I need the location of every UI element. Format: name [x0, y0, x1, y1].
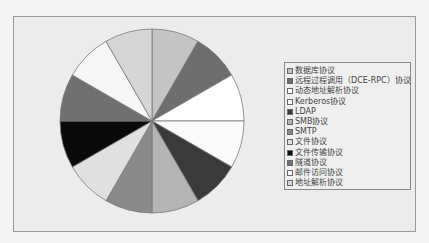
legend-item: 邮件访问协议	[287, 168, 408, 178]
legend-item: Kerberos协议	[287, 97, 408, 107]
legend-label: 远程过程调用（DCE-RPC）协议	[295, 76, 411, 86]
legend-label: Kerberos协议	[295, 97, 346, 107]
legend-swatch	[287, 180, 293, 186]
legend-item: 隧道协议	[287, 158, 408, 168]
legend-swatch	[287, 160, 293, 166]
legend-swatch	[287, 99, 293, 105]
legend-swatch	[287, 129, 293, 135]
legend-label: LDAP	[295, 107, 316, 117]
legend-label: 隧道协议	[295, 158, 327, 168]
legend-item: 远程过程调用（DCE-RPC）协议	[287, 76, 408, 86]
legend-item: 文件传输协议	[287, 148, 408, 158]
legend-label: SMTP	[295, 127, 317, 137]
legend-item: LDAP	[287, 107, 408, 117]
legend-label: 地址解析协议	[295, 178, 343, 188]
legend-swatch	[287, 109, 293, 115]
legend-item: 地址解析协议	[287, 178, 408, 188]
legend-label: 动态地址解析协议	[295, 86, 359, 96]
legend-item: SMB协议	[287, 117, 408, 127]
legend-swatch	[287, 150, 293, 156]
legend-item: 数据库协议	[287, 66, 408, 76]
legend-swatch	[287, 68, 293, 74]
legend-swatch	[287, 78, 293, 84]
legend-swatch	[287, 139, 293, 145]
legend-swatch	[287, 119, 293, 125]
legend: 数据库协议 远程过程调用（DCE-RPC）协议 动态地址解析协议 Kerbero…	[284, 62, 411, 190]
legend-label: 文件传输协议	[295, 148, 343, 158]
legend-label: 文件协议	[295, 137, 327, 147]
legend-label: SMB协议	[295, 117, 328, 127]
legend-label: 邮件访问协议	[295, 168, 343, 178]
pie-chart	[59, 28, 245, 214]
legend-swatch	[287, 88, 293, 94]
legend-item: 文件协议	[287, 137, 408, 147]
legend-swatch	[287, 170, 293, 176]
legend-item: SMTP	[287, 127, 408, 137]
legend-label: 数据库协议	[295, 66, 335, 76]
legend-item: 动态地址解析协议	[287, 86, 408, 96]
